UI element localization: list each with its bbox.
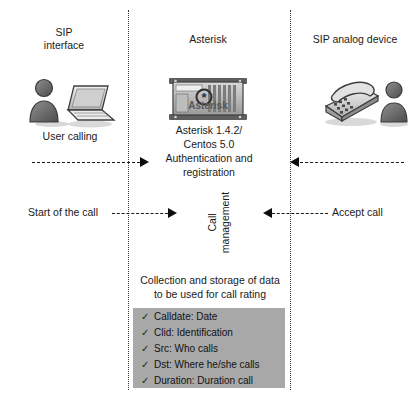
call-management-label-line1: Call <box>206 186 219 260</box>
cdr-field-label: Src: Who calls <box>154 341 218 357</box>
lane-divider-left <box>128 10 129 390</box>
cdr-field-row: ✓ Dst: Where he/she calls <box>133 357 285 373</box>
cdr-field-label: Dst: Where he/she calls <box>154 357 260 373</box>
cdr-field-label: Duration: Duration call <box>154 373 253 389</box>
sip-analog-device-icon-group <box>318 74 412 128</box>
svg-text:Asterisk: Asterisk <box>188 100 228 111</box>
asterisk-server-icon: * Asterisk <box>168 76 248 122</box>
lane-divider-right <box>290 10 291 390</box>
column-header-asterisk: Asterisk <box>140 33 276 46</box>
cdr-field-row: ✓ Calldate: Date <box>133 309 285 325</box>
start-of-the-call-label: Start of the call <box>28 206 112 219</box>
cdr-field-label: Clid: Identification <box>154 325 233 341</box>
authentication-flow-left-line <box>32 162 140 163</box>
column-header-sip-interface-line2: interface <box>14 39 114 52</box>
user-and-laptop-icon <box>22 74 118 128</box>
column-header-sip-analog-device: SIP analog device <box>296 33 414 46</box>
collection-storage-line2: to be used for call rating <box>130 288 290 302</box>
desk-phone-and-user-icon <box>318 74 412 128</box>
checkmark-icon: ✓ <box>141 309 154 325</box>
authentication-flow-left-arrowhead <box>140 157 149 167</box>
column-header-sip-interface: SIP interface <box>14 26 114 52</box>
start-call-flow-arrowhead <box>168 208 177 218</box>
checkmark-icon: ✓ <box>141 373 154 389</box>
call-management-label-line2: management <box>219 186 232 260</box>
asterisk-version-line2: Centos 5.0 <box>134 138 284 152</box>
asterisk-version-line1: Asterisk 1.4.2/ <box>134 124 284 138</box>
user-calling-caption: User calling <box>18 130 122 143</box>
cdr-field-row: ✓ Src: Who calls <box>133 341 285 357</box>
cdr-fields-box: ✓ Calldate: Date ✓ Clid: Identification … <box>133 308 285 388</box>
authentication-flow-right-arrowhead <box>290 157 299 167</box>
accept-call-flow-arrowhead <box>263 208 272 218</box>
asterisk-version-text: Asterisk 1.4.2/ Centos 5.0 <box>134 124 284 151</box>
cdr-field-row: ✓ Clid: Identification <box>133 325 285 341</box>
start-call-flow-line <box>112 213 168 214</box>
authentication-label-line2: registration <box>134 166 284 180</box>
collection-storage-line1: Collection and storage of data <box>130 274 290 288</box>
accept-call-label: Accept call <box>332 206 414 219</box>
cdr-field-row: ✓ Duration: Duration call <box>133 373 285 389</box>
authentication-flow-right-line <box>300 162 404 163</box>
cdr-field-label: Calldate: Date <box>154 309 217 325</box>
asterisk-appliance-icon: * Asterisk <box>168 76 248 122</box>
accept-call-flow-line <box>272 213 328 214</box>
user-calling-icon-group <box>22 74 118 128</box>
checkmark-icon: ✓ <box>141 325 154 341</box>
collection-storage-caption: Collection and storage of data to be use… <box>130 274 290 301</box>
authentication-label-line1: Authentication and <box>134 152 284 166</box>
column-header-sip-interface-line1: SIP <box>14 26 114 39</box>
checkmark-icon: ✓ <box>141 341 154 357</box>
call-management-label: Call management <box>186 192 238 264</box>
diagram-canvas: SIP interface Asterisk SIP analog device <box>0 0 419 400</box>
checkmark-icon: ✓ <box>141 357 154 373</box>
authentication-label: Authentication and registration <box>134 152 284 179</box>
